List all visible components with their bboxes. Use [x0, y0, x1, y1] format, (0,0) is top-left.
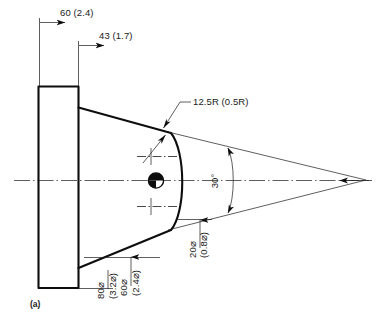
figure-label: (a) [30, 299, 41, 309]
dimension-label-throat-metric: 20⌀ [187, 241, 198, 258]
dimension-label-throat-imperial: (0.8⌀) [198, 232, 209, 258]
dimension-label-body-imperial: (2.4⌀) [130, 270, 141, 296]
technical-drawing-canvas: 60 (2.4) 43 (1.7) [0, 0, 377, 336]
dimension-label-flange-imperial: (3.2⌀) [107, 273, 118, 299]
dimension-label-body-metric: 60⌀ [118, 279, 129, 296]
engineering-drawing-svg: 60 (2.4) 43 (1.7) [0, 0, 377, 336]
drawing-background [0, 0, 377, 336]
dimension-label-flange-metric: 80⌀ [95, 282, 106, 299]
dimension-label-angle: 30° [209, 174, 220, 189]
dimension-label-overall-length: 60 (2.4) [60, 7, 94, 18]
dimension-label-taper-length: 43 (1.7) [99, 30, 133, 41]
center-ball-group [148, 173, 163, 188]
dimension-label-corner-radius: 12.5R (0.5R) [193, 96, 249, 107]
